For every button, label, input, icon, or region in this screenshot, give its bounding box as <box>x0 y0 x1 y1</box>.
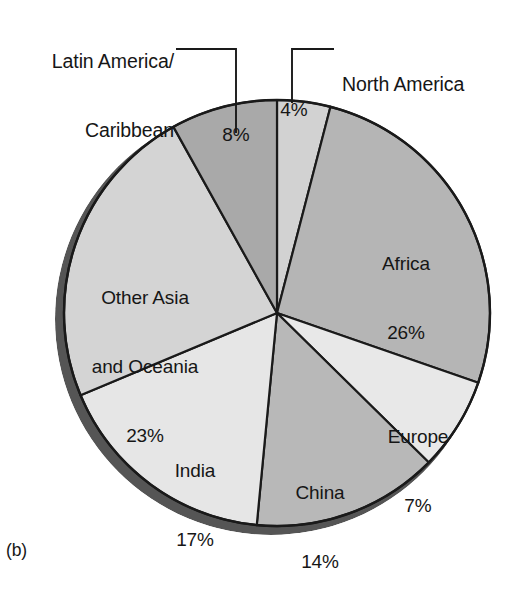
pie-chart-figure: Latin America/ Caribbean North America 8… <box>0 0 521 592</box>
slice-value-other-asia-oceania: 23% <box>55 424 235 447</box>
slice-value-north-america: 4% <box>259 99 329 121</box>
callout-latin-america-line2: Caribbean <box>28 119 174 142</box>
slice-value-africa: 26% <box>341 321 471 344</box>
slice-value-latin-america: 8% <box>186 124 286 146</box>
callout-north-america-line1: North America <box>342 73 512 96</box>
callout-label-latin-america: Latin America/ Caribbean <box>28 4 174 188</box>
slice-label-other-asia-line1: Other Asia <box>55 286 235 309</box>
slice-label-africa: Africa 26% <box>341 206 471 390</box>
slice-label-africa-name: Africa <box>341 252 471 275</box>
slice-label-china-name: China <box>258 481 382 504</box>
slice-value-india: 17% <box>135 528 255 551</box>
slice-label-other-asia-line2: and Oceania <box>55 355 235 378</box>
callout-latin-america-line1: Latin America/ <box>28 50 174 73</box>
slice-label-other-asia-oceania: Other Asia and Oceania 23% <box>55 240 235 493</box>
slice-label-china: China 14% <box>258 435 382 592</box>
slice-value-china: 14% <box>258 550 382 573</box>
panel-letter: (b) <box>6 540 27 561</box>
callout-label-north-america: North America <box>342 27 512 142</box>
leader-line-north-america <box>292 49 334 103</box>
